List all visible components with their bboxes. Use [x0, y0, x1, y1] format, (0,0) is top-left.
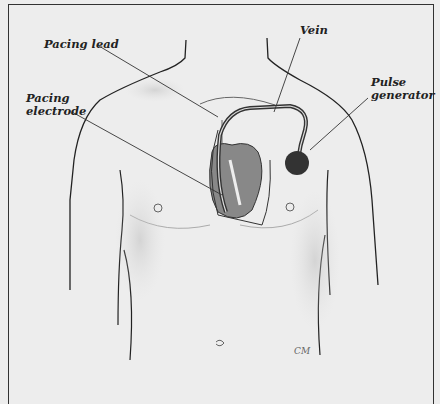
- signature: CM: [294, 346, 311, 356]
- label-pacing-electrode: Pacing electrode: [26, 92, 86, 118]
- label-pacing-lead: Pacing lead: [44, 38, 119, 51]
- label-pulse-generator: Pulse generator: [371, 76, 435, 102]
- pulse-generator: [285, 151, 309, 175]
- subclavian-vessel: [200, 97, 275, 105]
- navel: [216, 340, 224, 346]
- vein-callout: [274, 38, 300, 112]
- neck-right-outline: [267, 38, 300, 80]
- neck-left-outline: [160, 40, 186, 72]
- right-nipple: [286, 203, 294, 211]
- label-pacing-electrode-line2: electrode: [26, 105, 86, 118]
- label-pulse-generator-line2: generator: [371, 89, 435, 102]
- label-vein: Vein: [300, 24, 328, 37]
- pacing-lead-callout: [99, 46, 218, 117]
